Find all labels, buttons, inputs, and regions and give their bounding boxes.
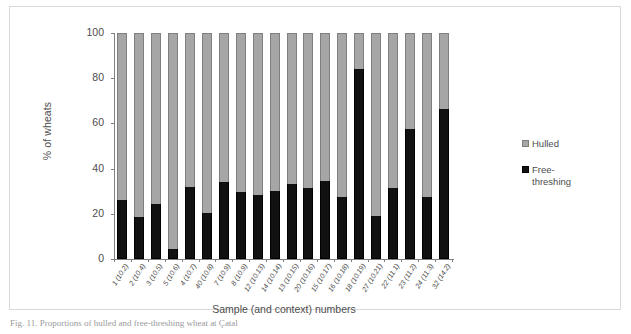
chart-figure-frame: % of wheats 020406080100 1 (10.2)2 (10.4… [9,6,621,310]
bar-segment-free-threshing[interactable] [320,181,330,259]
bar-segment-hulled[interactable] [185,33,195,187]
stacked-bar[interactable] [219,33,229,259]
stacked-bar[interactable] [405,33,415,259]
bar-group[interactable] [351,33,368,259]
bar-group[interactable] [114,33,131,259]
x-tickmark [266,259,267,262]
x-tick-label: 7 (10.9) [212,262,232,287]
bar-segment-free-threshing[interactable] [253,195,263,259]
x-tickmark [300,259,301,262]
stacked-bar[interactable] [151,33,161,259]
bar-group[interactable] [148,33,165,259]
stacked-bar[interactable] [388,33,398,259]
stacked-bar[interactable] [337,33,347,259]
bar-segment-free-threshing[interactable] [439,109,449,259]
stacked-bar[interactable] [303,33,313,259]
bar-segment-free-threshing[interactable] [168,249,178,259]
bar-segment-free-threshing[interactable] [287,184,297,259]
x-tick-label: 5 (10.6) [161,262,181,287]
bar-segment-free-threshing[interactable] [270,191,280,259]
bar-group[interactable] [317,33,334,259]
bar-group[interactable] [199,33,216,259]
bar-segment-free-threshing[interactable] [371,216,381,259]
bar-segment-hulled[interactable] [371,33,381,216]
bar-segment-free-threshing[interactable] [134,217,144,259]
stacked-bar[interactable] [287,33,297,259]
bar-segment-free-threshing[interactable] [151,204,161,259]
legend-label: Hulled [532,138,559,150]
stacked-bar[interactable] [422,33,432,259]
stacked-bar[interactable] [253,33,263,259]
bar-segment-hulled[interactable] [219,33,229,182]
bar-group[interactable] [249,33,266,259]
bar-group[interactable] [300,33,317,259]
y-axis-tick-labels: 020406080100 [72,7,104,309]
bar-segment-free-threshing[interactable] [422,197,432,259]
bar-segment-free-threshing[interactable] [202,213,212,259]
bar-group[interactable] [385,33,402,259]
x-tickmark [131,259,132,262]
bar-group[interactable] [435,33,452,259]
bar-segment-hulled[interactable] [202,33,212,213]
bar-group[interactable] [418,33,435,259]
stacked-bar[interactable] [185,33,195,259]
x-tickmark [384,259,385,262]
bar-segment-hulled[interactable] [439,33,449,109]
legend-item-free_threshing[interactable]: Free- threshing [522,164,614,188]
bar-segment-hulled[interactable] [422,33,432,197]
bar-segment-free-threshing[interactable] [405,129,415,259]
bar-group[interactable] [368,33,385,259]
bar-segment-free-threshing[interactable] [219,182,229,259]
bar-segment-hulled[interactable] [151,33,161,204]
bar-segment-hulled[interactable] [117,33,127,200]
bar-group[interactable] [131,33,148,259]
stacked-bar[interactable] [168,33,178,259]
x-tick-label-slot: 32 (14.2) [435,261,452,305]
bar-group[interactable] [401,33,418,259]
y-tickmark [111,169,114,170]
x-tickmark [165,259,166,262]
stacked-bar[interactable] [134,33,144,259]
bar-segment-hulled[interactable] [354,33,364,69]
bar-group[interactable] [334,33,351,259]
bar-group[interactable] [215,33,232,259]
bar-segment-hulled[interactable] [168,33,178,249]
bar-segment-free-threshing[interactable] [185,187,195,259]
bar-segment-hulled[interactable] [236,33,246,192]
x-tickmark [418,259,419,262]
bar-segment-hulled[interactable] [287,33,297,184]
y-tickmark [111,33,114,34]
bar-segment-free-threshing[interactable] [117,200,127,259]
figure-caption: Fig. 11. Proportions of hulled and free-… [10,318,610,328]
bar-segment-free-threshing[interactable] [354,69,364,259]
bar-segment-hulled[interactable] [270,33,280,191]
bar-segment-hulled[interactable] [134,33,144,217]
bar-group[interactable] [232,33,249,259]
x-tickmark [351,259,352,262]
bar-segment-hulled[interactable] [388,33,398,188]
bar-segment-hulled[interactable] [303,33,313,188]
bar-group[interactable] [182,33,199,259]
stacked-bar[interactable] [117,33,127,259]
stacked-bar[interactable] [320,33,330,259]
stacked-bar[interactable] [354,33,364,259]
bar-group[interactable] [283,33,300,259]
stacked-bar[interactable] [371,33,381,259]
bar-segment-free-threshing[interactable] [236,192,246,259]
stacked-bar[interactable] [270,33,280,259]
bar-segment-hulled[interactable] [253,33,263,195]
bar-segment-free-threshing[interactable] [388,188,398,259]
bar-group[interactable] [165,33,182,259]
x-axis-title: Sample (and context) numbers [114,303,454,315]
bar-segment-hulled[interactable] [320,33,330,181]
x-tickmark [334,259,335,262]
stacked-bar[interactable] [236,33,246,259]
legend-item-hulled[interactable]: Hulled [522,138,614,150]
bar-segment-free-threshing[interactable] [337,197,347,259]
bar-segment-free-threshing[interactable] [303,188,313,259]
bar-segment-hulled[interactable] [337,33,347,197]
stacked-bar[interactable] [439,33,449,259]
stacked-bar[interactable] [202,33,212,259]
bar-group[interactable] [266,33,283,259]
bar-segment-hulled[interactable] [405,33,415,129]
